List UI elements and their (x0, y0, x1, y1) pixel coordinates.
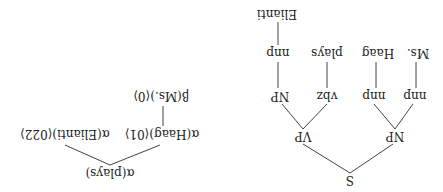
edge-s-vp (303, 144, 350, 173)
diagram-canvas: S NP VP nnp nnp vbz NP Ms. Haag plays nn… (0, 0, 443, 192)
deriv-node-elianti: α(Elianti)⟨022⟩ (20, 128, 110, 140)
node-np-subject: NP (386, 130, 405, 142)
deriv-node-ms: β(Ms.)⟨0⟩ (133, 90, 189, 102)
node-nnp-haag: nnp (362, 90, 385, 102)
node-vbz: vbz (317, 90, 338, 102)
word-haag: Haag (362, 47, 394, 59)
word-elianti: Elianti (257, 8, 297, 20)
node-s: S (346, 174, 354, 186)
edge-np-nnp1 (395, 104, 413, 129)
deriv-node-haag: α(Haag)⟨01⟩ (125, 128, 200, 140)
edge-vp-np (282, 104, 303, 129)
edge-plays-haag (110, 145, 160, 165)
word-ms: Ms. (407, 47, 429, 59)
deriv-node-plays: α(plays) (85, 167, 134, 179)
node-vp: VP (295, 130, 312, 142)
node-nnp-ms: nnp (403, 90, 426, 102)
edge-np-nnp2 (374, 104, 395, 129)
edge-s-np (350, 144, 393, 173)
word-plays: plays (311, 47, 343, 59)
node-nnp-elianti: nnp (266, 47, 289, 59)
node-np-object: NP (271, 90, 290, 102)
edge-vp-vbz (303, 104, 327, 129)
edge-plays-elianti (65, 145, 110, 165)
